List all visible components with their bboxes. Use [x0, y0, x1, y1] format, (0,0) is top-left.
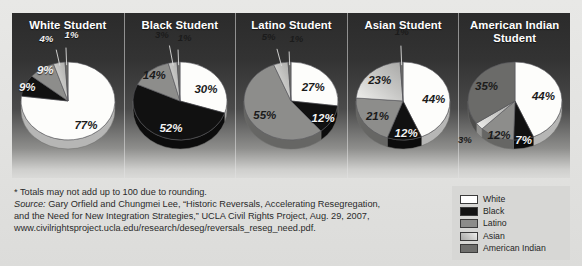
slice-label-white: 30%: [194, 84, 217, 96]
footnote-block: * Totals may not add up to 100 due to ro…: [14, 186, 444, 234]
legend-row-black: Black: [460, 205, 564, 217]
racial-composition-figure: White Student77%9%9%4%1%Black Student30%…: [0, 0, 582, 266]
slice-label-white: 27%: [302, 82, 325, 94]
pie-top-face: [21, 62, 115, 140]
slice-label-asian: 23%: [368, 75, 391, 87]
rounding-footnote: * Totals may not add up to 100 due to ro…: [14, 186, 444, 198]
pie-chart-1: 77%9%9%4%1%: [20, 57, 116, 153]
chart-column-2: Black Student30%52%14%3%1%: [124, 13, 236, 178]
chart-column-4: Asian Student44%12%21%23%1%: [347, 13, 459, 178]
legend-label: Black: [483, 207, 504, 216]
slice-label-white: 44%: [532, 91, 555, 103]
chart-title-3: Latino Student: [236, 19, 347, 32]
slice-label-latino: 55%: [253, 110, 276, 122]
slice-label-black: 7%: [515, 135, 532, 147]
chart-column-5: American IndianStudent44%7%12%3%35%: [458, 13, 570, 178]
legend-label: White: [483, 195, 505, 204]
legend-row-asian: Asian: [460, 230, 564, 242]
source-line-3: www.civilrightsproject.ucla.edu/research…: [14, 222, 444, 234]
legend-swatch-icon: [460, 244, 478, 253]
slice-label-black: 9%: [19, 82, 36, 94]
chart-title-5: American IndianStudent: [459, 19, 570, 45]
chart-title-2: Black Student: [125, 19, 236, 32]
source-line-2: and the Need for New Integration Strateg…: [14, 210, 444, 222]
legend-label: Asian: [483, 232, 505, 241]
pie-top-face: [244, 62, 338, 140]
slice-label-black: 12%: [312, 113, 335, 125]
slice-label-latino: 9%: [37, 65, 54, 77]
slice-label-black: 12%: [395, 128, 418, 140]
slice-label-asian: 3%: [155, 30, 169, 40]
slice-label-latino: 21%: [366, 111, 389, 123]
legend-row-latino: Latino: [460, 218, 564, 230]
slice-label-american-indian: 1%: [178, 33, 192, 43]
legend-swatch-icon: [460, 207, 478, 216]
pie-chart-3: 27%12%55%5%1%: [243, 57, 339, 153]
slice-label-black: 52%: [159, 123, 182, 135]
legend-swatch-icon: [460, 232, 478, 241]
slice-label-white: 44%: [422, 94, 445, 106]
slice-label-asian: 3%: [458, 135, 472, 145]
charts-panel: White Student77%9%9%4%1%Black Student30%…: [12, 13, 570, 178]
source-text-1: Gary Orfield and Chungmei Lee, “Historic…: [46, 199, 380, 209]
pie-chart-4: 44%12%21%23%1%: [355, 57, 451, 153]
chart-column-1: White Student77%9%9%4%1%: [12, 13, 124, 178]
chart-column-3: Latino Student27%12%55%5%1%: [235, 13, 347, 178]
source-label: Source:: [14, 199, 46, 209]
legend: WhiteBlackLatinoAsianAmerican Indian: [452, 186, 570, 260]
legend-label: Latino: [483, 219, 507, 228]
slice-label-american-indian: 1%: [65, 30, 79, 40]
slice-label-american-indian: 1%: [289, 34, 303, 44]
pie-chart-5: 44%7%12%3%35%: [467, 57, 563, 153]
legend-row-american-indian: American Indian: [460, 242, 564, 254]
slice-label-white: 77%: [74, 120, 97, 132]
slice-label-asian: 5%: [262, 32, 276, 42]
pie-chart-2: 30%52%14%3%1%: [132, 57, 228, 153]
slice-label-asian: 4%: [39, 34, 53, 44]
legend-swatch-icon: [460, 195, 478, 204]
legend-label: American Indian: [483, 244, 546, 253]
leader-line: [178, 50, 179, 66]
source-line-1: Source: Gary Orfield and Chungmei Lee, “…: [14, 198, 444, 210]
legend-swatch-icon: [460, 219, 478, 228]
slice-label-american-indian: 1%: [395, 27, 409, 37]
slice-label-latino: 14%: [143, 70, 166, 82]
legend-row-white: White: [460, 193, 564, 205]
slice-label-american-indian: 35%: [475, 81, 498, 93]
slice-label-latino: 12%: [487, 130, 510, 142]
leader-line: [290, 51, 291, 65]
